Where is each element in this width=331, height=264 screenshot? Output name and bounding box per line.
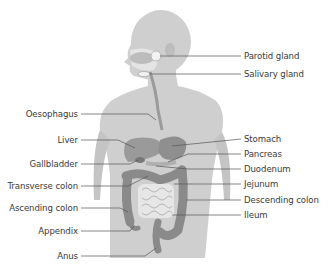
label-jejunum: Jejunum: [244, 179, 278, 189]
label-ileum: Ileum: [244, 210, 268, 220]
label-descending-colon: Descending colon: [244, 195, 319, 205]
label-appendix: Appendix: [38, 226, 78, 236]
label-salivary-gland: Salivary gland: [244, 69, 304, 79]
label-anus: Anus: [57, 251, 78, 261]
label-transverse-colon: Transverse colon: [7, 181, 78, 191]
anatomy-illustration: [0, 0, 331, 264]
pancreas: [146, 162, 176, 164]
gallbladder: [135, 157, 145, 163]
label-parotid-gland: Parotid gland: [244, 51, 299, 61]
digestive-system-diagram: Parotid gland Salivary gland Stomach Pan…: [0, 0, 331, 264]
rectum: [156, 222, 158, 250]
label-ascending-colon: Ascending colon: [9, 203, 78, 213]
label-pancreas: Pancreas: [244, 149, 282, 159]
label-liver: Liver: [57, 135, 78, 145]
label-oesophagus: Oesophagus: [26, 109, 78, 119]
label-gallbladder: Gallbladder: [30, 159, 78, 169]
label-stomach: Stomach: [244, 134, 281, 144]
body-silhouette: [94, 10, 231, 258]
ascending-colon: [126, 176, 130, 222]
label-duodenum: Duodenum: [244, 164, 291, 174]
